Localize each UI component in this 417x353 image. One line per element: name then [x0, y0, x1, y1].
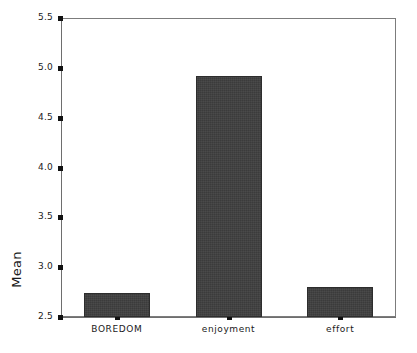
y-axis-title: Mean: [9, 242, 24, 298]
y-axis-tick: [58, 315, 63, 320]
y-axis-tick: [58, 116, 63, 121]
bar-boredom: [84, 293, 150, 317]
bar-enjoyment: [196, 76, 262, 317]
y-axis-tick-label: 4.0: [23, 162, 53, 172]
y-axis-tick-label: 4.5: [23, 112, 53, 122]
y-axis-tick-label: 5.5: [23, 12, 53, 22]
y-axis-tick: [58, 215, 63, 220]
y-axis-tick: [58, 16, 63, 21]
bar-chart: 2.53.03.54.04.55.05.5 BOREDOMenjoymentef…: [0, 0, 417, 353]
y-axis-tick-label: 5.0: [23, 62, 53, 72]
x-axis-tick-label: enjoyment: [202, 324, 256, 334]
y-axis-tick-label: 3.5: [23, 211, 53, 221]
y-axis-tick-label: 3.0: [23, 261, 53, 271]
y-axis-tick: [58, 265, 63, 270]
x-axis-tick-label: effort: [326, 324, 354, 334]
x-axis-tick-label: BOREDOM: [91, 324, 142, 334]
y-axis-tick: [58, 66, 63, 71]
bar-effort: [307, 287, 373, 317]
y-axis-tick-label: 2.5: [23, 311, 53, 321]
y-axis-tick: [58, 166, 63, 171]
